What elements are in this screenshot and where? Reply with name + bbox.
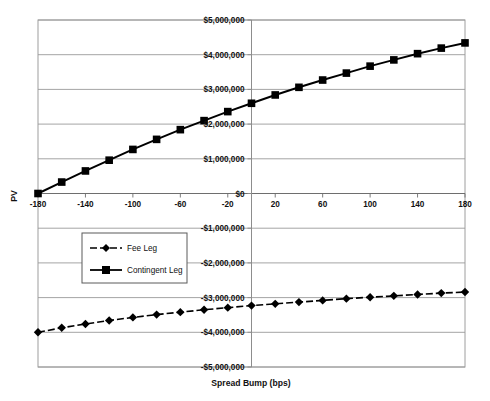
- x-tick-label: 60: [318, 200, 328, 209]
- y-tick-label: $4,000,000: [204, 51, 245, 60]
- y-tick-label: $5,000,000: [204, 16, 245, 25]
- chart-container: -180-140-100-60-202060100140180 Fee Leg …: [0, 0, 490, 401]
- data-point: [295, 84, 303, 92]
- data-point: [129, 146, 137, 154]
- y-tick-label: $3,000,000: [204, 85, 245, 94]
- y-tick-label: -$2,000,000: [201, 259, 245, 268]
- legend-marker-square: [102, 266, 110, 274]
- y-tick-label: -$1,000,000: [201, 224, 245, 233]
- y-tick-label: -$3,000,000: [201, 294, 245, 303]
- data-point: [58, 178, 66, 186]
- y-tick-label: $1,000,000: [204, 155, 245, 164]
- y-tick-label: $0: [235, 190, 245, 199]
- data-point: [224, 108, 232, 116]
- legend-label-fee-leg: Fee Leg: [127, 244, 157, 253]
- data-point: [319, 76, 327, 84]
- x-tick-label: 20: [271, 200, 281, 209]
- x-tick-label: 180: [458, 200, 472, 209]
- y-tick-label: -$5,000,000: [201, 363, 245, 372]
- chart-legend[interactable]: Fee Leg Contingent Leg: [82, 233, 187, 283]
- data-point: [390, 56, 398, 64]
- x-tick-label: 100: [363, 200, 377, 209]
- x-axis-title: Spread Bump (bps): [211, 378, 290, 388]
- data-point: [248, 99, 256, 107]
- data-point: [82, 167, 90, 175]
- data-point: [177, 126, 185, 134]
- data-point: [34, 190, 42, 198]
- pv-spread-bump-chart: -180-140-100-60-202060100140180 Fee Leg …: [0, 0, 490, 401]
- legend-box: [82, 233, 187, 283]
- x-tick-label: 140: [411, 200, 425, 209]
- x-tick-label: -60: [174, 200, 186, 209]
- legend-item-contingent-leg[interactable]: Contingent Leg: [90, 266, 183, 275]
- data-point: [271, 91, 279, 99]
- data-point: [437, 44, 445, 52]
- x-tick-label: -100: [125, 200, 142, 209]
- data-point: [461, 39, 469, 47]
- legend-label-contingent-leg: Contingent Leg: [127, 266, 183, 275]
- y-tick-label: $2,000,000: [204, 120, 245, 129]
- x-tick-label: -180: [30, 200, 47, 209]
- data-point: [343, 69, 351, 77]
- data-point: [153, 136, 161, 144]
- data-point: [366, 62, 374, 70]
- y-axis-title: PV: [9, 190, 19, 202]
- data-point: [105, 156, 113, 164]
- y-tick-label: -$4,000,000: [201, 328, 245, 337]
- data-point: [414, 50, 422, 58]
- x-tick-label: -140: [77, 200, 94, 209]
- x-tick-label: -20: [222, 200, 234, 209]
